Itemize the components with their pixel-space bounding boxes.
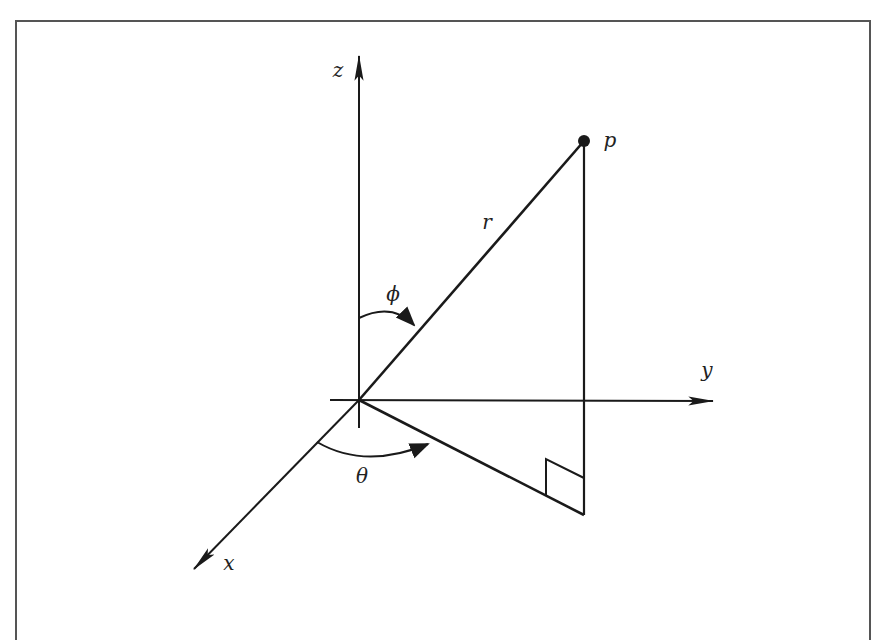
y-axis-label: y (701, 360, 712, 380)
x-axis (194, 400, 359, 569)
projection-segment (359, 400, 584, 515)
point-p-label: p (604, 130, 617, 150)
theta-angle-arc (317, 442, 428, 457)
phi-label: ϕ (386, 284, 400, 304)
right-angle-marker (546, 459, 584, 496)
radius-segment (359, 141, 584, 400)
phi-angle-arc (359, 311, 414, 325)
x-axis-label: x (223, 553, 234, 573)
y-axis (330, 400, 713, 401)
z-axis-label: z (333, 60, 344, 80)
point-p (578, 135, 590, 147)
radius-label: r (482, 212, 492, 232)
theta-label: θ (356, 466, 368, 486)
